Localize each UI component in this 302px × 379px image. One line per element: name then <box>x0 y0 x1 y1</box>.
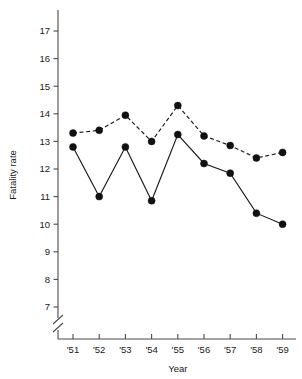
data-point-marker <box>96 193 103 200</box>
data-point-marker <box>122 112 129 119</box>
axis-labels: YearFatality rate <box>7 150 187 374</box>
y-tick-label: 13 <box>39 136 50 147</box>
line-chart: 7891011121314151617 '51'52'53'54'55'56'5… <box>0 0 302 379</box>
series-layer <box>70 102 287 228</box>
chart-figure: 7891011121314151617 '51'52'53'54'55'56'5… <box>0 0 302 379</box>
y-tick-label: 10 <box>39 219 50 230</box>
data-point-marker <box>148 197 155 204</box>
data-point-marker <box>201 132 208 139</box>
x-tick-label: '58 <box>250 344 262 355</box>
y-tick-label: 17 <box>39 25 50 36</box>
series-line-solid-series <box>73 135 283 225</box>
data-point-marker <box>279 149 286 156</box>
data-point-marker <box>279 221 286 228</box>
y-tick-label: 16 <box>39 53 50 64</box>
y-axis-title: Fatality rate <box>7 150 18 200</box>
data-point-marker <box>227 170 234 177</box>
y-tick-label: 12 <box>39 163 50 174</box>
data-point-marker <box>96 127 103 134</box>
y-tick-label: 8 <box>45 274 50 285</box>
x-tick-label: '51 <box>67 344 79 355</box>
data-point-marker <box>122 143 129 150</box>
data-point-marker <box>174 131 181 138</box>
y-tick-label: 14 <box>39 108 50 119</box>
data-point-marker <box>253 210 260 217</box>
y-axis: 7891011121314151617 <box>39 10 63 339</box>
data-point-marker <box>174 102 181 109</box>
x-tick-label: '59 <box>276 344 288 355</box>
y-axis-break-icon <box>53 315 63 339</box>
y-tick-label: 7 <box>45 301 50 312</box>
data-point-marker <box>148 138 155 145</box>
x-tick-label: '54 <box>145 344 157 355</box>
x-tick-label: '57 <box>224 344 236 355</box>
x-axis: '51'52'53'54'55'56'57'58'59 <box>58 334 296 355</box>
x-tick-label: '53 <box>119 344 131 355</box>
y-tick-label: 9 <box>45 246 50 257</box>
y-tick-label: 15 <box>39 81 50 92</box>
y-tick-label: 11 <box>40 191 50 202</box>
x-axis-title: Year <box>168 363 187 374</box>
data-point-marker <box>70 130 77 137</box>
x-tick-label: '55 <box>172 344 184 355</box>
data-point-marker <box>227 142 234 149</box>
data-point-marker <box>70 143 77 150</box>
data-point-marker <box>201 160 208 167</box>
x-tick-label: '52 <box>93 344 105 355</box>
data-point-marker <box>253 154 260 161</box>
x-tick-label: '56 <box>198 344 210 355</box>
